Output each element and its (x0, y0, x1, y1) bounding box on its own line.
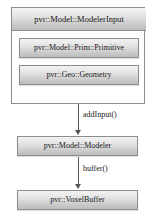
modeler-input-header: pvr::Model::ModelerInput (12, 8, 146, 31)
add-input-edge-label: addInput() (83, 111, 117, 119)
class-diagram: pvr::Model::ModelerInput pvr::Model::Pri… (0, 0, 155, 222)
voxel-buffer-node: pvr::VoxelBuffer (17, 190, 138, 210)
modeler-input-container: pvr::Model::ModelerInput pvr::Model::Pri… (11, 7, 145, 104)
buffer-arrow-shaft (78, 157, 79, 186)
modeler-node: pvr::Model::Modeler (17, 136, 138, 156)
primitive-node-label: pvr::Model::Prim::Primitive (34, 44, 124, 52)
buffer-arrow-head-icon (75, 184, 81, 189)
modeler-input-header-label: pvr::Model::ModelerInput (34, 15, 124, 24)
primitive-node: pvr::Model::Prim::Primitive (19, 38, 139, 58)
add-input-arrow-shaft (78, 104, 79, 132)
voxel-buffer-node-label: pvr::VoxelBuffer (50, 196, 104, 204)
modeler-node-label: pvr::Model::Modeler (44, 142, 112, 150)
buffer-edge-label: buffer() (83, 165, 108, 173)
geometry-node: pvr::Geo::Geometry (19, 65, 139, 85)
geometry-node-label: pvr::Geo::Geometry (47, 71, 112, 79)
add-input-arrow-head-icon (75, 130, 81, 135)
